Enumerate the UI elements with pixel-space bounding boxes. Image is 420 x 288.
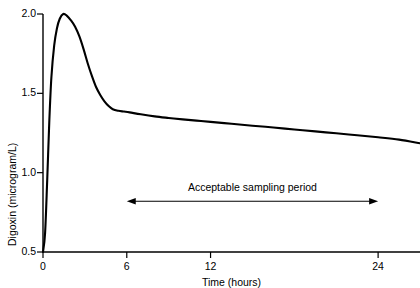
concentration-curve (43, 14, 420, 252)
arrowhead-right-icon (369, 198, 378, 204)
x-tick-label: 12 (191, 260, 231, 272)
y-tick-label: 0.5 (8, 245, 36, 257)
x-axis-title: Time (hours) (43, 276, 420, 288)
sampling-period-arrow (127, 198, 378, 204)
x-tick-label: 24 (358, 260, 398, 272)
y-tick-label: 1.0 (8, 166, 36, 178)
y-axis-title: Digoxin (microgram/L) (6, 143, 18, 246)
sampling-period-label: Acceptable sampling period (117, 181, 388, 193)
x-tick-label: 0 (23, 260, 63, 272)
arrowhead-left-icon (127, 198, 136, 204)
y-tick-label: 2.0 (8, 7, 36, 19)
y-axis-ticks (37, 14, 43, 252)
axes (43, 14, 420, 252)
x-axis-ticks (43, 252, 378, 258)
x-tick-label: 6 (107, 260, 147, 272)
y-tick-label: 1.5 (8, 86, 36, 98)
